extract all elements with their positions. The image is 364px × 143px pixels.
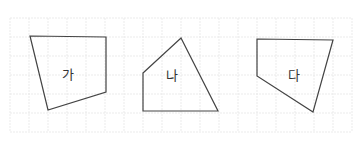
label-na: 나 xyxy=(166,68,178,83)
label-da: 다 xyxy=(288,68,300,83)
quadrilateral-figure: 가 나 다 xyxy=(0,0,364,143)
label-ga: 가 xyxy=(62,67,74,82)
shapes-group: 가 나 다 xyxy=(30,36,333,112)
shape-na xyxy=(143,38,218,111)
